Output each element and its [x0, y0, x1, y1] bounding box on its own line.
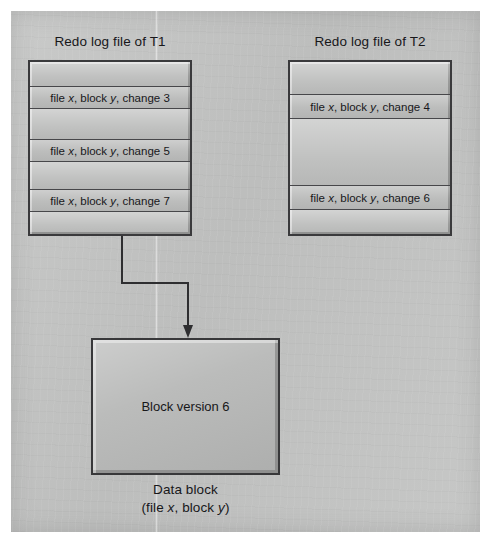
t2-log-title: Redo log file of T2	[288, 34, 452, 49]
t2-row-blank-1	[290, 118, 450, 185]
t1-entry-text-7: file x, block y, change 7	[50, 195, 170, 207]
figure-canvas: Redo log file of T1 file x, block y, cha…	[0, 0, 492, 543]
data-block-caption-line2: (file x, block y)	[91, 500, 280, 515]
t1-log-title: Redo log file of T1	[28, 34, 192, 49]
t2-row-blank-2	[290, 209, 450, 234]
t1-row-entry-change7: file x, block y, change 7	[30, 189, 190, 211]
t1-row-blank-3	[30, 211, 190, 234]
t1-entry-text-3: file x, block y, change 3	[50, 92, 170, 104]
t2-row-blank-0	[290, 62, 450, 94]
data-block: Block version 6	[91, 338, 280, 475]
t1-entry-text-5: file x, block y, change 5	[50, 145, 170, 157]
t1-row-entry-change5: file x, block y, change 5	[30, 139, 190, 161]
t1-row-blank-1	[30, 108, 190, 139]
t2-log-box: file x, block y, change 4 file x, block …	[288, 60, 452, 236]
data-block-value: Block version 6	[141, 399, 229, 414]
t1-row-blank-2	[30, 161, 190, 189]
t1-row-entry-change3: file x, block y, change 3	[30, 86, 190, 108]
t1-log-box: file x, block y, change 3 file x, block …	[28, 60, 192, 236]
t2-entry-text-4: file x, block y, change 4	[310, 101, 430, 113]
t1-row-blank-0	[30, 62, 190, 86]
t2-row-entry-change4: file x, block y, change 4	[290, 94, 450, 118]
t2-row-entry-change6: file x, block y, change 6	[290, 185, 450, 209]
data-block-caption-line1: Data block	[91, 482, 280, 497]
t2-entry-text-6: file x, block y, change 6	[310, 192, 430, 204]
